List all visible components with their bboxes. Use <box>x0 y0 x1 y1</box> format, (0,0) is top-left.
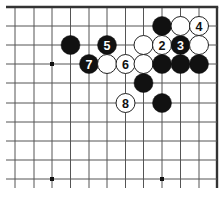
black-stone <box>153 17 172 36</box>
go-board-diagram: 5762348 <box>0 0 219 199</box>
move-number: 6 <box>122 58 129 72</box>
star-point <box>160 177 164 181</box>
white-stone-move-4: 4 <box>190 17 209 36</box>
white-stone <box>134 55 153 74</box>
black-stone <box>153 94 172 113</box>
black-stone <box>134 74 153 93</box>
star-point <box>50 177 54 181</box>
move-number: 3 <box>177 39 184 53</box>
move-number: 7 <box>86 58 93 72</box>
black-stone <box>171 55 190 74</box>
white-stone <box>190 36 209 55</box>
white-stone <box>171 17 190 36</box>
white-stone <box>134 36 153 55</box>
star-point <box>50 62 54 66</box>
move-number: 5 <box>104 39 111 53</box>
black-stone-move-5: 5 <box>98 36 117 55</box>
board-grid <box>6 7 218 188</box>
stones: 5762348 <box>61 17 209 113</box>
white-stone <box>98 55 117 74</box>
black-stone-move-7: 7 <box>80 55 99 74</box>
move-number: 8 <box>122 97 129 111</box>
black-stone <box>190 55 209 74</box>
move-number: 4 <box>196 20 203 34</box>
white-stone-move-8: 8 <box>116 94 135 113</box>
black-stone <box>153 55 172 74</box>
black-stone <box>61 36 80 55</box>
white-stone-move-2: 2 <box>153 36 172 55</box>
move-number: 2 <box>159 39 166 53</box>
black-stone-move-3: 3 <box>171 36 190 55</box>
white-stone-move-6: 6 <box>116 55 135 74</box>
